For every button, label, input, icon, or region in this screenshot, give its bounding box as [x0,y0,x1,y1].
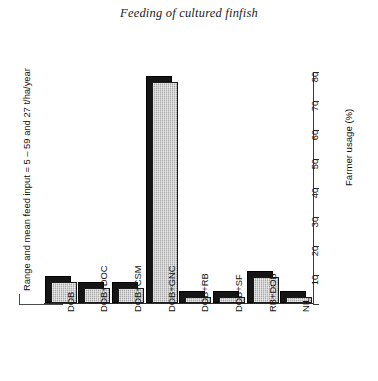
y-tick-label: 70 [310,101,320,111]
chart-title: Feeding of cultured finfish [0,6,378,21]
plot-area [44,64,313,304]
x-tick-label: RB+DOB [267,273,278,312]
x-tick-label: DOB [65,292,76,312]
x-tick-label: DOB+GNC [166,265,177,312]
y-tick-label: 80 [310,72,320,82]
y-axis-title: Farmer usage (%) [343,109,354,186]
x-tick-label: DOB+CSM [132,265,143,312]
x-tick-label: DOB+SF [233,274,244,312]
y-tick-label: 40 [310,188,320,198]
x-tick-label: DOB+RB [199,273,210,312]
x-tick-label: DOB+DOC [98,265,109,312]
x-tick-label: NIL [300,297,311,312]
left-axis-annotation: Range and mean feed input = 5 – 59 and 2… [21,55,32,305]
chart-figure: Feeding of cultured finfish Range and me… [0,0,378,381]
y-tick [313,304,319,305]
y-tick-label: 60 [310,130,320,140]
y-tick-label: 10 [310,275,320,285]
y-tick-label: 30 [310,217,320,227]
y-tick-label: 20 [310,246,320,256]
y-tick-label: 50 [310,159,320,169]
